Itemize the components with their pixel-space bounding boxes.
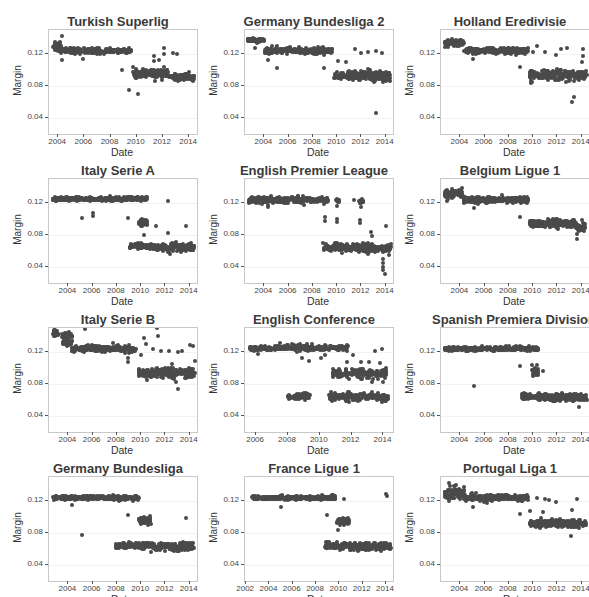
outlier-point — [323, 353, 327, 357]
y-tick-mark — [437, 85, 440, 86]
y-tick-mark — [437, 351, 440, 352]
outlier-point — [352, 198, 356, 202]
y-axis-label: Margin — [404, 363, 415, 394]
y-tick-mark — [437, 234, 440, 235]
outlier-point — [176, 387, 180, 391]
y-tick-mark — [241, 383, 244, 384]
y-tick-label: 0.12 — [409, 197, 435, 206]
outlier-point — [580, 218, 584, 222]
y-tick-label: 0.12 — [213, 48, 239, 57]
y-tick-mark — [241, 351, 244, 352]
y-tick-label: 0.04 — [409, 112, 435, 121]
y-tick-label: 0.04 — [17, 559, 43, 568]
outlier-point — [353, 47, 357, 51]
outlier-point — [176, 350, 180, 354]
outlier-point — [156, 334, 160, 338]
chart-panel: Portugal Liga 10.040.080.122004200620082… — [392, 447, 588, 596]
y-tick-label: 0.04 — [409, 559, 435, 568]
outlier-point — [565, 46, 569, 50]
y-tick-mark — [45, 564, 48, 565]
outlier-point — [184, 516, 188, 520]
outlier-point — [367, 360, 371, 364]
y-tick-mark — [437, 383, 440, 384]
y-axis-label: Margin — [12, 512, 23, 543]
plot-area — [440, 29, 589, 135]
outlier-point — [83, 327, 87, 331]
chart-title: Turkish Superlig — [40, 14, 196, 29]
plot-area — [48, 476, 198, 582]
chart-panel: Holland Eredivisie0.040.080.122004200620… — [392, 0, 588, 149]
y-tick-label: 0.12 — [409, 346, 435, 355]
y-tick-label: 0.04 — [17, 261, 43, 270]
outlier-point — [445, 199, 449, 203]
outlier-point — [535, 44, 539, 48]
outlier-point — [253, 46, 257, 50]
y-tick-mark — [241, 53, 244, 54]
outlier-point — [359, 360, 363, 364]
outlier-point — [577, 405, 581, 409]
y-axis-label: Margin — [208, 363, 219, 394]
y-tick-mark — [437, 202, 440, 203]
outlier-point — [275, 66, 279, 70]
outlier-point — [378, 361, 382, 365]
chart-title: France Ligue 1 — [236, 461, 392, 476]
y-tick-mark — [241, 234, 244, 235]
y-tick-mark — [45, 53, 48, 54]
x-tick-label: 2010 — [304, 435, 334, 444]
outlier-point — [323, 219, 327, 223]
y-axis-label: Margin — [404, 512, 415, 543]
y-tick-label: 0.12 — [409, 48, 435, 57]
outlier-point — [307, 359, 311, 363]
outlier-point — [471, 505, 475, 509]
outlier-point — [345, 360, 349, 364]
y-tick-mark — [45, 351, 48, 352]
outlier-point — [359, 205, 363, 209]
outlier-point — [80, 533, 84, 537]
chart-title: English Premier League — [236, 163, 392, 178]
chart-panel: Germany Bundesliga 20.040.080.1220042006… — [196, 0, 392, 149]
x-tick-label: 2014 — [566, 286, 589, 295]
outlier-point — [529, 80, 533, 84]
outlier-point — [380, 347, 384, 351]
outlier-point — [518, 65, 522, 69]
chart-title: Italy Serie A — [40, 163, 196, 178]
outlier-point — [256, 352, 260, 356]
y-tick-mark — [241, 202, 244, 203]
y-tick-label: 0.04 — [409, 410, 435, 419]
plot-area — [48, 29, 198, 135]
outlier-point — [139, 353, 143, 357]
outlier-point — [541, 510, 545, 514]
y-tick-label: 0.12 — [213, 346, 239, 355]
outlier-point — [157, 58, 161, 62]
outlier-point — [152, 54, 156, 58]
y-tick-mark — [241, 266, 244, 267]
y-tick-label: 0.04 — [213, 261, 239, 270]
outlier-point — [321, 241, 325, 245]
outlier-point — [162, 46, 166, 50]
outlier-point — [472, 206, 476, 210]
outlier-point — [528, 509, 532, 513]
outlier-point — [554, 500, 558, 504]
outlier-point — [162, 52, 166, 56]
outlier-point — [518, 364, 522, 368]
y-tick-mark — [45, 500, 48, 501]
y-tick-label: 0.04 — [409, 261, 435, 270]
y-tick-mark — [241, 532, 244, 533]
chart-panel: Belgium Ligue 10.040.080.122004200620082… — [392, 149, 588, 298]
outlier-point — [335, 220, 339, 224]
outlier-point — [358, 221, 362, 225]
chart-title: Holland Eredivisie — [432, 14, 588, 29]
outlier-point — [336, 528, 340, 532]
outlier-point — [336, 59, 340, 63]
y-tick-mark — [437, 117, 440, 118]
y-tick-mark — [45, 383, 48, 384]
outlier-point — [387, 253, 391, 257]
plot-area — [48, 327, 198, 433]
y-tick-mark — [437, 532, 440, 533]
chart-title: Spanish Premiera Division — [432, 312, 588, 327]
x-tick-label: 2006 — [240, 435, 270, 444]
y-tick-mark — [45, 85, 48, 86]
y-axis-label: Margin — [12, 65, 23, 96]
outlier-point — [81, 57, 85, 61]
outlier-point — [142, 336, 146, 340]
